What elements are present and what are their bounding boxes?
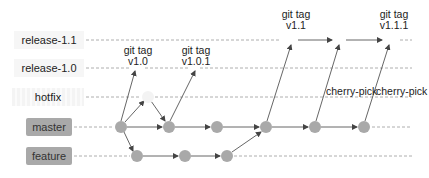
tag-v1-0-1-line2: v1.0.1: [176, 56, 216, 67]
tag-v1-1-1: git tag v1.1.1: [374, 9, 414, 31]
tag-v1-0-1: git tag v1.0.1: [176, 45, 216, 67]
annotation-cherry-pick-2: cherry-pick: [376, 85, 427, 97]
tag-v1-1-line2: v1.1: [276, 20, 316, 31]
faint-nodes: [142, 91, 154, 103]
commit-arrows: [121, 40, 389, 156]
tag-v1-1-1-line2: v1.1.1: [374, 20, 414, 31]
tag-v1-0-line2: v1.0: [118, 56, 158, 67]
annotation-cherry-pick-1: cherry-pick: [326, 85, 377, 97]
tag-v1-0: git tag v1.0: [118, 45, 158, 67]
tag-v1-1: git tag v1.1: [276, 9, 316, 31]
